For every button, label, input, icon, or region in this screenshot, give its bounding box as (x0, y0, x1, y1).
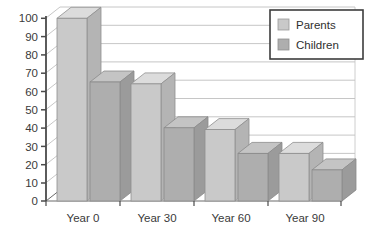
y-tick-label: 20 (25, 159, 38, 171)
y-tick-label: 80 (25, 49, 38, 61)
chart-container: 100 90 80 70 60 50 40 30 20 10 0 Year 0 … (0, 0, 371, 248)
legend-swatch-children (278, 39, 289, 50)
x-tick-label: Year 60 (211, 212, 250, 224)
x-tick-label: Year 0 (67, 212, 100, 224)
x-tick-labels: Year 0 Year 30 Year 60 Year 90 (67, 212, 325, 224)
y-tick-label: 60 (25, 86, 38, 98)
bar-chart-3d: 100 90 80 70 60 50 40 30 20 10 0 Year 0 … (0, 0, 371, 248)
y-tick-label: 70 (25, 67, 38, 79)
bar-children-year-0[interactable] (90, 71, 134, 201)
bar-children-year-90[interactable] (312, 159, 356, 201)
legend-item-children[interactable]: Children (278, 39, 339, 51)
x-tick-label: Year 30 (137, 212, 176, 224)
x-tick-label: Year 90 (285, 212, 324, 224)
bar-children-year-60[interactable] (238, 142, 282, 201)
legend-label-children: Children (296, 39, 339, 51)
y-tick-label: 40 (25, 122, 38, 134)
y-tick-label: 90 (25, 31, 38, 43)
chart-legend[interactable]: Parents Children (270, 10, 363, 59)
y-tick-labels: 100 90 80 70 60 50 40 30 20 10 0 (19, 12, 38, 207)
y-tick-label: 50 (25, 104, 38, 116)
y-axis (41, 16, 46, 201)
legend-swatch-parents (278, 19, 289, 30)
y-tick-label: 30 (25, 141, 38, 153)
y-tick-label: 100 (19, 12, 38, 24)
legend-label-parents: Parents (296, 19, 336, 31)
x-axis-ticks (46, 201, 341, 206)
legend-item-parents[interactable]: Parents (278, 19, 336, 31)
y-tick-label: 0 (32, 195, 38, 207)
y-tick-label: 10 (25, 177, 38, 189)
bar-children-year-30[interactable] (164, 117, 208, 201)
